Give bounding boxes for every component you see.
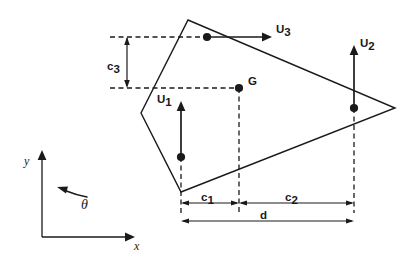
- axis-y-arrowhead: [38, 150, 47, 160]
- dimension-c2-label: c2: [285, 191, 298, 206]
- figure-container: c3 U3 U2 U1: [0, 0, 411, 261]
- dimension-c3-arrowhead-down: [124, 80, 130, 88]
- force-vector-u2-label: U2: [360, 37, 375, 52]
- dimension-d-arrowhead-right: [346, 218, 354, 223]
- dimension-c1-arrowhead-right: [231, 200, 239, 205]
- theta-indicator: θ: [57, 186, 88, 212]
- dimension-d-arrowhead-left: [181, 218, 189, 223]
- center-of-gravity-label: G: [248, 75, 257, 87]
- force-point-u2: [350, 104, 358, 112]
- force-vector-u3-arrowhead: [262, 33, 272, 42]
- force-vector-u1: U1: [157, 93, 185, 161]
- force-vector-u1-arrowhead: [177, 101, 186, 111]
- force-point-u1: [177, 153, 185, 161]
- free-body-diagram: c3 U3 U2 U1: [0, 0, 411, 261]
- dimension-c3-label: c3: [107, 60, 120, 75]
- theta-label: θ: [81, 197, 88, 212]
- dimension-c1: c1: [181, 191, 239, 206]
- force-vector-u1-label: U1: [157, 93, 172, 108]
- force-vector-u3-label: U3: [276, 23, 291, 38]
- center-of-gravity-dot: [235, 84, 243, 92]
- dimension-d-label: d: [260, 209, 267, 221]
- dimension-c1-label: c1: [201, 191, 214, 206]
- center-of-gravity: G: [235, 75, 257, 92]
- theta-arrowhead: [57, 186, 68, 193]
- dimension-c3: c3: [107, 37, 130, 88]
- dimension-c2-arrowhead-right: [346, 200, 354, 205]
- force-vector-u2: U2: [350, 37, 375, 112]
- dimension-c2-arrowhead-left: [239, 200, 247, 205]
- dimension-c1-arrowhead-left: [181, 200, 189, 205]
- dimension-d: d: [181, 209, 354, 224]
- axis-y-label: y: [23, 154, 30, 168]
- force-point-u3: [203, 33, 211, 41]
- force-vector-u2-arrowhead: [350, 45, 359, 55]
- axis-x-label: x: [133, 239, 140, 253]
- dimension-c3-arrowhead-up: [124, 37, 130, 45]
- dimension-c2: c2: [239, 191, 354, 206]
